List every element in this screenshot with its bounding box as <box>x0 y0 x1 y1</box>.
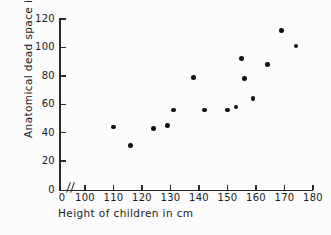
plot-area <box>0 0 331 235</box>
data-point <box>171 108 176 113</box>
data-point <box>251 96 256 101</box>
data-point <box>265 62 270 67</box>
data-point <box>234 105 239 110</box>
data-point <box>242 76 247 81</box>
data-point <box>202 108 207 113</box>
data-point <box>294 44 299 49</box>
data-point <box>165 123 170 128</box>
data-point <box>225 108 230 113</box>
scatter-plot-figure: Anatomical dead space in ml Height of ch… <box>0 0 331 235</box>
data-point <box>279 28 284 33</box>
data-point <box>128 143 133 148</box>
data-point <box>111 125 116 130</box>
data-point <box>239 56 244 61</box>
data-point <box>151 126 156 131</box>
data-point <box>191 75 196 80</box>
